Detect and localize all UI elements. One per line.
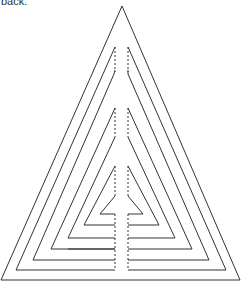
layer-2-left bbox=[33, 70, 115, 260]
layer-3-left bbox=[51, 108, 115, 249]
layer-6-right bbox=[128, 196, 143, 214]
outer-triangle bbox=[1, 6, 240, 280]
layer-1-left bbox=[16, 47, 115, 270]
layer-3-right bbox=[128, 108, 192, 249]
layer-6-left bbox=[100, 196, 115, 214]
layer-4-right bbox=[128, 137, 175, 238]
layer-2-right bbox=[128, 70, 209, 260]
nested-triangle-diagram bbox=[0, 0, 247, 287]
layer-5-right bbox=[128, 166, 159, 225]
layer-1-right bbox=[128, 47, 226, 270]
layer-5-left bbox=[84, 166, 115, 225]
layer-4-left bbox=[68, 137, 115, 238]
